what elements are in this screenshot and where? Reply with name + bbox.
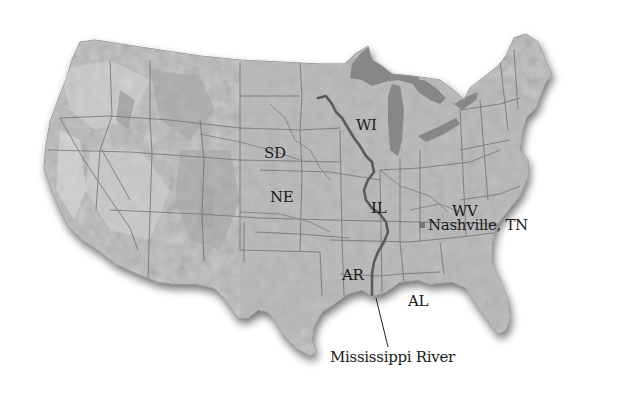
label-ne: NE bbox=[270, 190, 293, 205]
label-mississippi-river: Mississippi River bbox=[330, 350, 455, 365]
us-map: SD NE WI IL WV AR AL Nashville, TN Missi… bbox=[0, 0, 618, 400]
label-il: IL bbox=[371, 201, 386, 216]
map-details bbox=[0, 0, 618, 400]
label-wi: WI bbox=[356, 118, 377, 133]
label-al: AL bbox=[408, 294, 428, 309]
river-leader-line bbox=[376, 298, 388, 347]
map-graphic bbox=[0, 0, 618, 400]
label-nashville: Nashville, TN bbox=[428, 218, 528, 233]
nashville-marker bbox=[419, 222, 425, 228]
label-sd: SD bbox=[264, 146, 286, 161]
label-ar: AR bbox=[342, 268, 364, 283]
